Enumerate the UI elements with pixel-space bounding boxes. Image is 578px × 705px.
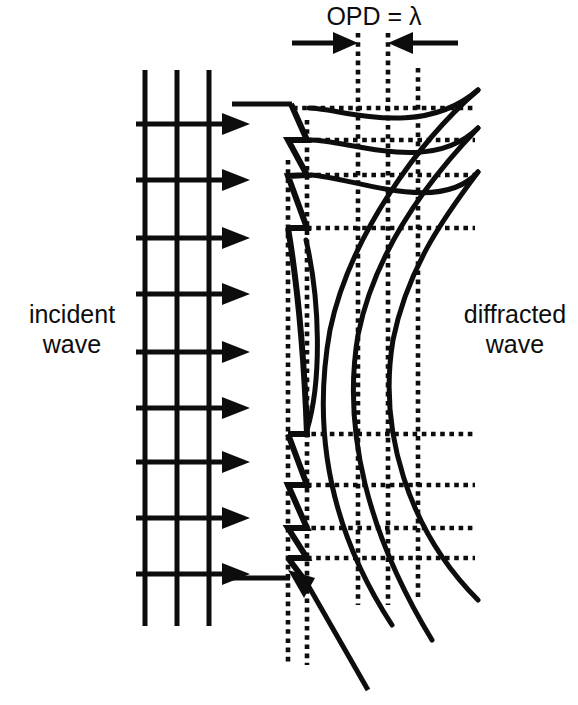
- arrow-right-icon: [222, 397, 250, 419]
- blazed-grating-profile: [288, 104, 307, 578]
- incident-ray-5: [136, 341, 250, 363]
- incident-wavefronts: [145, 70, 209, 626]
- incident-ray-8: [136, 507, 250, 529]
- arrow-right-icon: [222, 563, 250, 585]
- incident-ray-2: [136, 169, 250, 191]
- opd-arrow-left: [292, 32, 358, 54]
- incident-ray-6: [136, 397, 250, 419]
- arrow-right-icon: [222, 227, 250, 249]
- grating-facet-center-curved: [288, 228, 307, 434]
- diffracted-wavefronts: [306, 90, 478, 640]
- incident-ray-3: [136, 227, 250, 249]
- arrow-right-icon: [222, 113, 250, 135]
- arrow-right-icon: [222, 283, 250, 305]
- grating-connectors: [232, 104, 292, 578]
- incident-ray-1: [136, 113, 250, 135]
- opd-dimension: [292, 32, 458, 54]
- grating-facets-lower: [288, 434, 307, 558]
- arrow-right-icon: [222, 507, 250, 529]
- incident-wave-label: incident wave: [8, 300, 136, 359]
- diffracted-arc-3: [389, 172, 478, 600]
- arrow-left-icon: [388, 32, 413, 54]
- arrow-right-icon: [222, 169, 250, 191]
- opd-arrow-right: [388, 32, 458, 54]
- diffraction-diagram-figure: OPD = λ incident wave diffracted wave: [0, 0, 578, 705]
- incident-ray-9: [136, 563, 250, 585]
- arrow-right-icon: [333, 32, 358, 54]
- incident-ray-7-top: [136, 451, 250, 473]
- incident-ray-4: [136, 283, 250, 305]
- grating-facets-upper: [288, 104, 307, 228]
- arrow-right-icon: [222, 451, 250, 473]
- arrow-right-icon: [222, 341, 250, 363]
- opd-label: OPD = λ: [288, 2, 460, 32]
- diffracted-wave-label: diffracted wave: [452, 300, 578, 359]
- incident-rays: [136, 113, 250, 585]
